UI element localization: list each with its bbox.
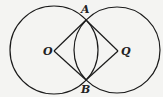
label-b: B xyxy=(80,83,90,96)
segment-aq xyxy=(86,20,118,51)
label-q: Q xyxy=(121,45,131,58)
label-o: O xyxy=(43,45,53,58)
segment-oa xyxy=(54,20,86,51)
diagram-canvas: A B O Q xyxy=(0,0,163,97)
segment-qb xyxy=(86,51,118,80)
segment-bo xyxy=(54,51,86,80)
circle-centered-o xyxy=(10,6,98,94)
geometry-diagram: A B O Q xyxy=(0,0,163,97)
label-a: A xyxy=(80,3,90,16)
